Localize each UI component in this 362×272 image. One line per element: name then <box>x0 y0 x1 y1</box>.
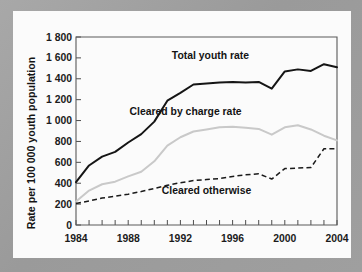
x-tick-label: 2000 <box>273 233 296 244</box>
series-label-cleared-by-charge-rate: Cleared by charge rate <box>130 106 242 117</box>
screenshot-root: Rate per 100 000 youth population 020040… <box>0 0 362 272</box>
plot-frame-path <box>76 37 337 225</box>
chart-figure: Rate per 100 000 youth population 020040… <box>13 11 351 258</box>
y-tick-label: 1 200 <box>46 94 72 105</box>
line-chart: Rate per 100 000 youth population 020040… <box>13 11 351 258</box>
x-tick-label: 1992 <box>169 233 192 244</box>
series-annotations: Total youth rateCleared by charge rateCl… <box>130 50 252 196</box>
y-tick-label: 1 600 <box>46 52 72 63</box>
x-tick-label: 1984 <box>64 233 87 244</box>
y-axis-title: Rate per 100 000 youth population <box>25 57 37 229</box>
y-tick-label: 0 <box>66 220 72 231</box>
series-line-total-youth-rate <box>76 64 337 182</box>
x-axis-ticks: 198419881992199620002004 <box>64 220 348 244</box>
y-tick-label: 1 400 <box>46 73 72 84</box>
y-tick-label: 1 000 <box>46 115 72 126</box>
y-tick-label: 600 <box>55 157 73 168</box>
x-tick-label: 1996 <box>221 233 244 244</box>
y-tick-label: 400 <box>55 178 73 189</box>
data-series-group <box>76 64 337 203</box>
x-tick-label: 1988 <box>117 233 140 244</box>
plot-frame <box>76 37 337 225</box>
y-tick-label: 1 800 <box>46 32 72 43</box>
series-label-total-youth-rate: Total youth rate <box>172 50 249 61</box>
chart-card: Rate per 100 000 youth population 020040… <box>13 11 351 258</box>
y-tick-label: 200 <box>55 199 73 210</box>
series-label-cleared-otherwise: Cleared otherwise <box>162 185 252 196</box>
x-tick-label: 2004 <box>325 233 348 244</box>
y-tick-label: 800 <box>55 136 73 147</box>
y-axis-title-group: Rate per 100 000 youth population <box>25 57 37 229</box>
